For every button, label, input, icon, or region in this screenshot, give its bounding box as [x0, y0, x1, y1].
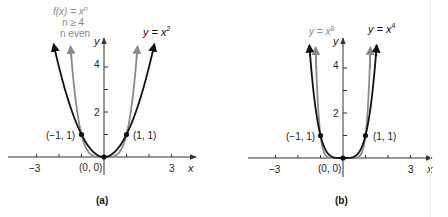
series-label-x-to-n-line1: f(x) = xn	[53, 5, 88, 17]
panel-a: x y −3 3 2 4 (−1, 1) (1, 1) (0, 0) y = x…	[8, 5, 196, 206]
point-origin	[101, 154, 106, 159]
point-label-1-1: (1, 1)	[373, 131, 396, 142]
tick-label-4: 4	[94, 59, 100, 70]
point-1-1	[363, 133, 368, 138]
tick-label-neg3: −3	[29, 163, 41, 174]
series-label-x-squared: y = x2	[142, 25, 171, 38]
tick-label-2: 2	[333, 108, 339, 119]
right-border-line	[430, 0, 431, 217]
point-label-origin: (0, 0)	[79, 162, 102, 173]
curve-x-to-4-left-arrow	[309, 46, 310, 57]
series-label-x-to-8: y = x8	[308, 25, 334, 37]
figure-svg: x y −3 3 2 4 (−1, 1) (1, 1) (0, 0) y = x…	[0, 0, 448, 217]
tick-label-2: 2	[94, 107, 100, 118]
figure: x y −3 3 2 4 (−1, 1) (1, 1) (0, 0) y = x…	[0, 0, 448, 217]
series-label-x-to-n-line3: n even	[60, 28, 90, 39]
point-label-origin: (0, 0)	[318, 163, 341, 174]
point-label-1-1: (1, 1)	[133, 130, 156, 141]
point-label-neg1-1: (−1, 1)	[46, 130, 75, 141]
curve-x-to-8-left-arrow	[316, 48, 317, 68]
tick-label-3: 3	[408, 164, 414, 175]
curve-x-squared-left-arrow	[54, 45, 55, 51]
curve-x-to-n-left-arrow	[71, 47, 72, 58]
panel-label-b: (b)	[335, 195, 348, 206]
point-1-1	[124, 132, 129, 137]
point-origin	[340, 155, 345, 160]
tick-label-neg3: −3	[269, 164, 281, 175]
x-axis-label: x	[187, 162, 194, 174]
y-axis-label: y	[93, 35, 101, 47]
y-axis-label: y	[332, 35, 340, 47]
tick-label-4: 4	[333, 60, 339, 71]
series-label-x-to-4: y = x4	[367, 22, 396, 35]
point-label-neg1-1: (−1, 1)	[286, 131, 315, 142]
point-neg1-1	[79, 132, 84, 137]
curve-x-squared-right-arrow	[153, 45, 154, 51]
panel-b: x y −3 3 2 4 (−1, 1) (1, 1) (0, 0) y = x…	[248, 22, 433, 206]
point-neg1-1	[318, 133, 323, 138]
curve-x-to-8-right-arrow	[370, 48, 371, 68]
curve-x-to-4-right-arrow	[376, 46, 377, 57]
tick-label-3: 3	[169, 163, 175, 174]
panel-label-a: (a)	[96, 195, 108, 206]
series-label-x-to-n-line2: n ≥ 4	[62, 17, 85, 28]
curve-x-to-n-right-arrow	[137, 47, 138, 58]
